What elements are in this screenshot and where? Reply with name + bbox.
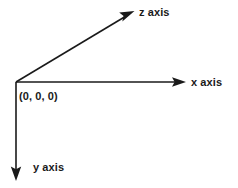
z-axis-line <box>16 16 127 83</box>
z-axis-label: z axis <box>139 7 170 18</box>
x-axis-group <box>16 77 186 87</box>
y-axis-label: y axis <box>33 162 64 173</box>
z-axis-arrowhead-icon <box>119 11 134 22</box>
z-axis-group <box>16 11 135 82</box>
x-axis-label: x axis <box>191 77 222 88</box>
coordinate-axes-diagram: z axis x axis y axis (0, 0, 0) <box>0 0 238 188</box>
origin-coordinate-label: (0, 0, 0) <box>19 91 58 102</box>
